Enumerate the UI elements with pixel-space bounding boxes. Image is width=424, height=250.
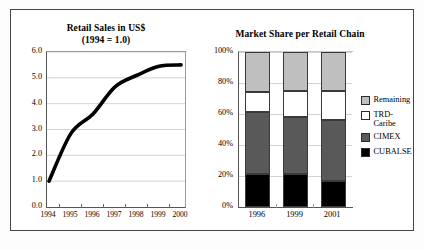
line-chart-line (49, 65, 181, 181)
bar-segment-cubalse[interactable] (321, 181, 346, 207)
line-chart-y-tick-label: 5.0 (12, 73, 42, 81)
bar-segment-trd-caribe[interactable] (321, 91, 346, 120)
bar-chart-y-tick-label: 100% (200, 47, 233, 55)
bar-chart-y-tick-label: 80% (200, 78, 233, 86)
legend-swatch-icon (361, 96, 370, 105)
bar-chart-y-tick-label: 20% (200, 171, 233, 179)
legend-item-label: Remaining (374, 95, 411, 104)
line-chart-y-tick-label: 2.0 (12, 150, 42, 158)
line-chart-x-tick-label: 1995 (59, 211, 81, 219)
line-chart-y-tick-label: 4.0 (12, 99, 42, 107)
legend-item[interactable]: Remaining (361, 95, 421, 105)
bar-chart-x-tickmark (276, 204, 277, 208)
bar-chart-column[interactable] (283, 52, 308, 207)
line-chart-series-svg (47, 52, 185, 207)
line-chart-x-tickmark (59, 204, 60, 208)
legend-item[interactable]: CUBALSE (361, 147, 421, 157)
bar-chart: Market Share per Retail Chain 100%80%60%… (200, 11, 420, 229)
legend-item[interactable]: TRD- Caribe (361, 110, 421, 128)
bar-chart-x-tick-label: 1999 (281, 211, 309, 219)
line-chart-x-tick-label: 1994 (37, 211, 59, 219)
bar-chart-column[interactable] (321, 52, 346, 207)
line-chart-y-tick-label: 1.0 (12, 176, 42, 184)
line-chart-plot-area (46, 51, 186, 208)
line-chart-x-tickmark (81, 204, 82, 208)
bar-chart-y-tick-label: 40% (200, 140, 233, 148)
line-chart-gridlines (47, 52, 185, 181)
bar-segment-cubalse[interactable] (245, 174, 270, 207)
line-chart-x-tick-label: 1996 (81, 211, 103, 219)
line-chart-x-tick-label: 2000 (169, 211, 191, 219)
line-chart-x-tick-label: 1998 (125, 211, 147, 219)
bar-chart-x-tick-label: 1996 (243, 211, 271, 219)
line-chart-x-tickmark (169, 204, 170, 208)
line-chart-y-tick-label: 3.0 (12, 125, 42, 133)
line-chart-x-tick-label: 1999 (147, 211, 169, 219)
bar-chart-plot-area (238, 51, 353, 208)
bar-chart-legend: RemainingTRD- CaribeCIMEXCUBALSE (361, 95, 421, 161)
bar-segment-remaining[interactable] (321, 52, 346, 91)
legend-item-label: CUBALSE (374, 147, 412, 156)
line-chart: Retail Sales in US$ (1994 = 1.0) 6.05.04… (12, 11, 200, 229)
bar-segment-cimex[interactable] (245, 112, 270, 174)
legend-item-label: CIMEX (374, 132, 401, 141)
bar-segment-cubalse[interactable] (283, 174, 308, 207)
line-chart-title: Retail Sales in US$ (1994 = 1.0) (12, 23, 200, 46)
bar-segment-trd-caribe[interactable] (245, 92, 270, 112)
bar-chart-x-tickmark (313, 204, 314, 208)
legend-swatch-icon (361, 111, 370, 120)
bar-segment-trd-caribe[interactable] (283, 91, 308, 117)
figure-canvas: Retail Sales in US$ (1994 = 1.0) 6.05.04… (0, 0, 424, 250)
line-chart-y-tick-label: 0.0 (12, 202, 42, 210)
bar-chart-y-tick-label: 0% (200, 202, 233, 210)
bar-chart-title: Market Share per Retail Chain (200, 29, 400, 41)
line-chart-y-tick-label: 6.0 (12, 47, 42, 55)
legend-item-label: TRD- Caribe (374, 110, 396, 128)
line-chart-x-tickmark (125, 204, 126, 208)
bar-segment-cimex[interactable] (283, 117, 308, 174)
line-chart-x-tickmark (147, 204, 148, 208)
bar-segment-cimex[interactable] (321, 120, 346, 180)
legend-item[interactable]: CIMEX (361, 132, 421, 142)
bar-segment-remaining[interactable] (245, 52, 270, 92)
legend-swatch-icon (361, 133, 370, 142)
bar-chart-column[interactable] (245, 52, 270, 207)
bar-chart-y-tick-label: 60% (200, 109, 233, 117)
bar-segment-remaining[interactable] (283, 52, 308, 91)
line-chart-x-tickmark (103, 204, 104, 208)
bar-chart-x-tick-label: 2001 (318, 211, 346, 219)
legend-swatch-icon (361, 148, 370, 157)
line-chart-x-tick-label: 1997 (103, 211, 125, 219)
